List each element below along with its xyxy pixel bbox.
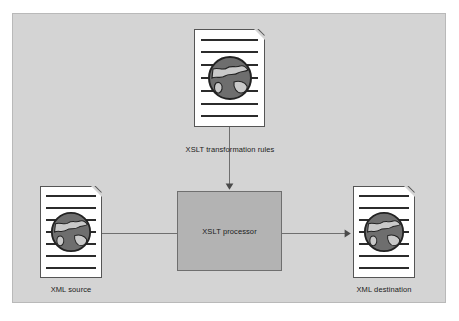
xml-document-globe-icon (194, 29, 265, 127)
xml-document-globe-icon (40, 186, 102, 278)
globe-icon (207, 55, 253, 101)
node-xml-destination[interactable] (353, 186, 415, 278)
caption-xml-destination: XML destination (334, 285, 434, 294)
node-xml-source[interactable] (40, 186, 102, 278)
caption-xslt-rules: XSLT transformation rules (155, 145, 305, 154)
diagram-canvas: XSLT transformation rules XSLT processor… (0, 0, 459, 321)
label-xslt-processor: XSLT processor (177, 227, 282, 236)
globe-icon (50, 211, 92, 253)
xml-document-globe-icon (353, 186, 415, 278)
node-xslt-rules[interactable] (194, 29, 265, 127)
globe-icon (363, 211, 405, 253)
caption-xml-source: XML source (21, 285, 121, 294)
